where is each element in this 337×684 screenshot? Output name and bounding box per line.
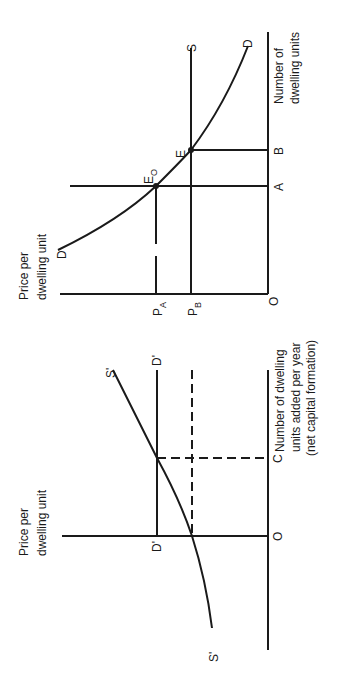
panel-a-price-axis-title: Price per dwelling unit [17,233,49,300]
demand-curve-d [58,46,248,250]
panel-flow-market: Price per dwelling unit Number of dwelli… [17,340,318,662]
svg-text:Number of: Number of [272,47,286,104]
svg-text:O: O [149,169,159,176]
svg-text:dwelling unit: dwelling unit [35,233,49,300]
panel-a-quantity-axis-title: Number of dwelling units [272,32,302,104]
point-e0-label: E O [142,169,159,184]
demand-prime-start-label: D' [150,541,164,552]
quantity-b-label: B [272,147,286,155]
demand-prime-end-label: D' [150,355,164,366]
svg-text:units added per year: units added per year [289,343,303,452]
svg-text:Price per: Price per [17,508,31,556]
quantity-a-label: A [272,183,286,191]
panel-b-price-axis-title: Price per dwelling unit [17,489,49,556]
panel-a-origin-label: O [267,297,281,306]
svg-text:Price per: Price per [17,252,31,300]
panel-b-quantity-axis-title: Number of dwelling units added per year … [273,340,318,456]
demand-end-label: D [241,39,255,48]
supply-s-label: S [185,44,199,52]
supply-prime-end-label: S' [104,368,118,378]
svg-text:Number of dwelling: Number of dwelling [273,349,287,452]
supply-prime-start-label: S' [207,652,221,662]
price-b-label: P B [186,302,203,316]
panel-stock-market: Price per dwelling unit Number of dwelli… [17,32,302,316]
svg-text:(net capital formation): (net capital formation) [304,340,318,456]
price-a-label: P A [151,302,168,316]
svg-text:B: B [193,302,203,308]
svg-text:P: P [186,308,200,316]
point-e-marker [188,147,194,153]
svg-text:dwelling units: dwelling units [288,32,302,104]
supply-curve-s-prime [113,370,212,628]
svg-text:P: P [151,308,165,316]
svg-text:E: E [142,176,156,184]
panel-b-origin-label: O [271,532,285,541]
point-e-label: E [174,150,188,158]
svg-text:A: A [158,302,168,308]
demand-start-label: D [55,250,69,259]
svg-text:dwelling unit: dwelling unit [35,489,49,556]
diagram-canvas: Price per dwelling unit Number of dwelli… [0,0,337,684]
quantity-c-label: C [271,454,285,463]
